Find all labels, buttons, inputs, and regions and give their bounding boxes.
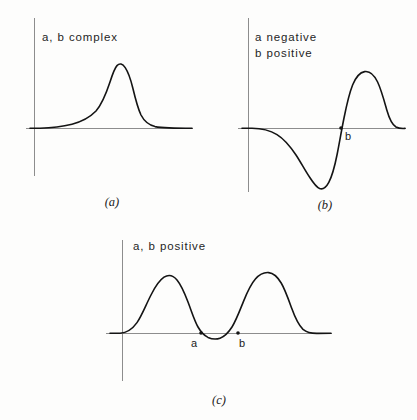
panel-b-caption: (b)	[318, 198, 333, 212]
panel-c-annotation: a, b positive	[133, 240, 206, 252]
panel-c-point-label-a: a	[191, 337, 198, 349]
panel-a-annotation: a, b complex	[42, 31, 118, 43]
panel-a: a, b complex (a)	[26, 18, 193, 209]
panel-b: a negative b positive b (b)	[238, 18, 406, 212]
panel-b-annotation-line1: a negative	[255, 31, 317, 43]
figure-canvas: a, b complex (a) a negative b positive b…	[0, 0, 417, 420]
panel-c: a, b positive a b (c)	[106, 240, 332, 407]
panel-b-point-label-b: b	[345, 130, 351, 142]
panel-b-annotation-line2: b positive	[255, 47, 313, 59]
panel-c-curve	[110, 273, 331, 339]
panel-c-point-label-b: b	[239, 337, 245, 349]
panel-c-caption: (c)	[212, 393, 226, 407]
panel-a-curve	[30, 64, 192, 128]
figure-root: a, b complex (a) a negative b positive b…	[0, 0, 417, 420]
panel-b-curve	[242, 71, 405, 188]
panel-c-zero-crossing-dot-a	[199, 331, 203, 335]
panel-c-zero-crossing-dot-b	[236, 331, 240, 335]
panel-b-zero-crossing-dot	[339, 126, 343, 130]
panel-a-caption: (a)	[105, 195, 120, 209]
